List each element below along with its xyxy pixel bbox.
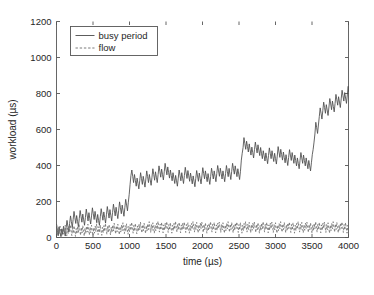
- legend: busy periodflow: [71, 27, 158, 56]
- y-tick-label: 800: [36, 88, 52, 99]
- series-line-busy-period: [57, 86, 349, 236]
- data-series: [57, 86, 349, 236]
- x-axis-title: time (µs): [183, 256, 222, 267]
- y-tick-label: 600: [36, 124, 52, 135]
- x-tick-label: 3000: [265, 240, 286, 251]
- y-tick-label: 200: [36, 196, 52, 207]
- figure-container: 0500100015002000250030003500400002004006…: [0, 0, 374, 295]
- y-tick-label: 0: [46, 232, 51, 243]
- y-tick-label: 1200: [30, 16, 51, 27]
- legend-label-busy-period: busy period: [99, 30, 148, 41]
- y-tick-label: 1000: [30, 52, 51, 63]
- x-tick-label: 3500: [301, 240, 322, 251]
- x-tick-label: 4000: [338, 240, 359, 251]
- x-tick-label: 2000: [192, 240, 213, 251]
- x-tick-label: 0: [54, 240, 59, 251]
- chart-canvas: 0500100015002000250030003500400002004006…: [0, 0, 374, 295]
- x-tick-label: 500: [85, 240, 101, 251]
- x-tick-label: 2500: [228, 240, 249, 251]
- x-tick-label: 1500: [155, 240, 176, 251]
- y-tick-label: 400: [36, 160, 52, 171]
- legend-label-flow: flow: [99, 42, 116, 53]
- x-tick-label: 1000: [119, 240, 140, 251]
- y-axis-title: workload (µs): [7, 99, 18, 160]
